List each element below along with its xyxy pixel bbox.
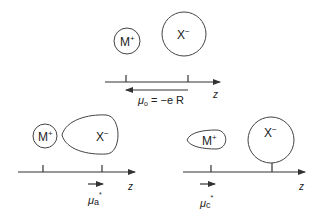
dipole-label-mua: μa*: [87, 191, 102, 207]
dipole-label-mu0: μo = −e R: [137, 94, 184, 107]
z-axis-label: z: [298, 181, 304, 192]
ion-pair-dipole-diagram: M+ X− z μo = −e R M+ X− z μa* M+ X− z μc…: [0, 0, 319, 217]
anion-label: X−: [264, 125, 277, 140]
panel-top: M+ X− z μo = −e R: [105, 12, 220, 107]
cation-label: M+: [38, 129, 53, 144]
z-axis-label: z: [127, 181, 133, 192]
anion-teardrop: [62, 115, 118, 154]
anion-circle: [248, 117, 294, 163]
panel-bottom-left: M+ X− z μa*: [18, 115, 135, 207]
cation-label: M+: [120, 34, 135, 49]
anion-label: X−: [177, 27, 190, 42]
panel-bottom-right: M+ X− z μc*: [183, 117, 305, 210]
anion-label: X−: [96, 129, 109, 144]
dipole-label-muc: μc*: [199, 194, 214, 210]
z-axis-label: z: [212, 89, 218, 100]
cation-label: M+: [202, 133, 217, 148]
